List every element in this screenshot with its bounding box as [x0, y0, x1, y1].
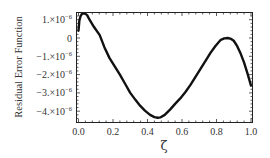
- residual-error-chart: Residual Error Function 1.×10−60−1.×10−6…: [0, 0, 270, 158]
- x-tick-label: 0.2: [107, 126, 120, 137]
- x-tick-label: 1.0: [245, 126, 258, 137]
- x-tick-label: 0.4: [141, 126, 154, 137]
- x-axis-title: ζ: [160, 138, 167, 153]
- x-tick-label: 0.0: [72, 126, 85, 137]
- y-axis-title-group: Residual Error Function: [13, 16, 24, 118]
- y-axis-title: Residual Error Function: [13, 16, 24, 118]
- y-tick-label: 0: [67, 33, 72, 44]
- x-tick-label: 0.6: [176, 126, 189, 137]
- x-tick-label: 0.8: [210, 126, 223, 137]
